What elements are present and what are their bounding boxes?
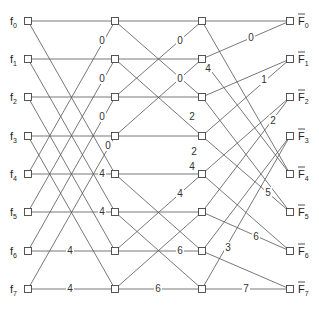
node <box>112 248 119 255</box>
twiddle-label: 6 <box>155 283 161 294</box>
edge <box>202 136 290 251</box>
twiddle-label: 2 <box>191 146 197 157</box>
twiddle-label: 4 <box>99 168 105 179</box>
input-label: f2 <box>10 91 17 105</box>
input-label: f0 <box>10 15 17 29</box>
twiddle-label: 7 <box>243 283 249 294</box>
output-label: F2 <box>298 91 309 105</box>
node <box>199 56 206 63</box>
node <box>25 18 32 25</box>
node <box>287 171 294 178</box>
node <box>287 209 294 216</box>
node <box>25 248 32 255</box>
twiddle-label: 0 <box>177 73 183 84</box>
twiddle-label: 4 <box>205 63 211 74</box>
output-label: F0 <box>298 15 309 29</box>
twiddle-label: 6 <box>253 231 259 242</box>
node <box>287 133 294 140</box>
twiddle-label: 4 <box>67 245 73 256</box>
input-label: f5 <box>10 206 17 220</box>
node <box>199 94 206 101</box>
output-label: F7 <box>298 283 309 297</box>
node <box>112 286 119 293</box>
input-label: f6 <box>10 245 17 259</box>
output-label: F1 <box>298 53 309 67</box>
node <box>112 133 119 140</box>
butterfly-graph: 000044440022446604125637f0f1f2f3f4f5f6f7… <box>0 0 319 311</box>
node <box>287 56 294 63</box>
twiddle-label: 4 <box>67 283 73 294</box>
node <box>112 56 119 63</box>
edge <box>202 59 290 97</box>
twiddle-label: 4 <box>189 161 195 172</box>
node <box>112 18 119 25</box>
twiddle-label: 0 <box>99 111 105 122</box>
node <box>112 94 119 101</box>
node <box>199 133 206 140</box>
node <box>112 171 119 178</box>
output-label: F6 <box>298 245 309 259</box>
twiddle-label: 4 <box>177 188 183 199</box>
node <box>25 94 32 101</box>
input-label: f7 <box>10 283 17 297</box>
node <box>25 209 32 216</box>
twiddle-label: 1 <box>261 74 267 85</box>
twiddle-label: 4 <box>99 206 105 217</box>
twiddle-label: 0 <box>99 35 105 46</box>
node <box>287 18 294 25</box>
output-label: F5 <box>298 206 309 220</box>
twiddle-labels: 000044440022446604125637 <box>66 32 277 294</box>
edge <box>202 97 290 174</box>
output-label: F3 <box>298 130 309 144</box>
twiddle-label: 5 <box>265 187 271 198</box>
twiddle-label: 0 <box>99 73 105 84</box>
node <box>199 286 206 293</box>
node <box>25 56 32 63</box>
twiddle-label: 2 <box>270 115 276 126</box>
node <box>112 209 119 216</box>
node <box>199 171 206 178</box>
twiddle-label: 0 <box>105 140 111 151</box>
io-labels: f0f1f2f3f4f5f6f7F0F1F2F3F4F5F6F7 <box>10 14 309 297</box>
output-label: F4 <box>298 168 309 182</box>
twiddle-label: 2 <box>189 111 195 122</box>
node <box>25 286 32 293</box>
edge <box>202 21 290 59</box>
node <box>287 248 294 255</box>
node <box>199 18 206 25</box>
edge <box>202 136 290 212</box>
twiddle-label: 0 <box>248 32 254 43</box>
input-label: f1 <box>10 53 17 67</box>
node <box>199 248 206 255</box>
input-label: f3 <box>10 130 17 144</box>
node <box>287 94 294 101</box>
input-label: f4 <box>10 168 17 182</box>
node <box>25 171 32 178</box>
node <box>287 286 294 293</box>
twiddle-label: 6 <box>177 245 183 256</box>
edge <box>202 212 290 251</box>
twiddle-label: 3 <box>225 242 231 253</box>
twiddle-label: 0 <box>177 35 183 46</box>
edge <box>202 136 290 289</box>
fft-butterfly-diagram: 000044440022446604125637f0f1f2f3f4f5f6f7… <box>0 0 319 311</box>
node <box>199 209 206 216</box>
node <box>25 133 32 140</box>
